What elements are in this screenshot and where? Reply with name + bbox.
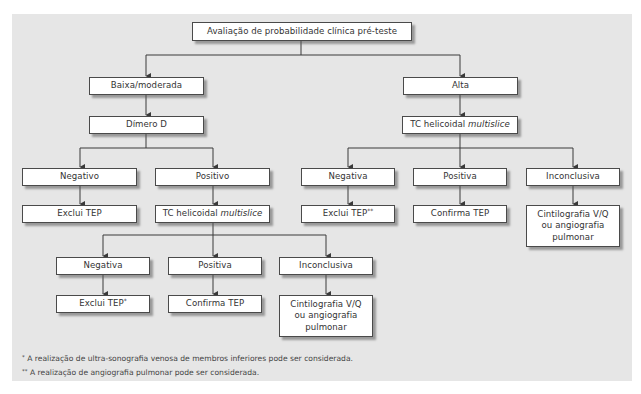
node-label-line: ou angiografia	[295, 310, 358, 322]
node-label: Inconclusiva	[546, 171, 600, 183]
footnote-marker: *	[124, 297, 127, 304]
node-ct-low-pos-confirms-pe: Confirma TEP	[168, 295, 262, 313]
node-label-line: ou angiografia	[542, 220, 605, 232]
node-ct-low-inc-scintigraphy: Cintilografia V/Q ou angiografia pulmona…	[279, 295, 373, 337]
footnote-marker: **	[367, 207, 373, 214]
node-label-line: Cintilografia V/Q	[290, 299, 361, 311]
node-label: Negativa	[329, 171, 368, 183]
node-label: Confirma TEP	[431, 208, 489, 220]
node-ct-low: TC helicoidal multislice	[155, 205, 270, 223]
node-ct-low-positive: Positiva	[168, 257, 262, 275]
node-label: Avaliação de probabilidade clínica pré-t…	[207, 26, 397, 38]
node-label: Baixa/moderada	[111, 80, 182, 92]
node-ct-high-negative: Negativa	[301, 168, 395, 186]
node-high: Alta	[403, 77, 518, 95]
node-label: Exclui TEP	[57, 208, 101, 220]
node-label: Exclui TEP*	[79, 298, 126, 310]
node-ct-low-inconclusive: Inconclusiva	[279, 257, 373, 275]
node-ct-low-neg-excludes-pe: Exclui TEP*	[56, 295, 150, 313]
node-ct-high-inconclusive: Inconclusiva	[526, 168, 620, 186]
node-ct-high-pos-confirms-pe: Confirma TEP	[413, 205, 507, 223]
node-label: Alta	[452, 80, 469, 92]
node-label: Exclui TEP**	[323, 208, 374, 220]
node-ct-high-inc-scintigraphy: Cintilografia V/Q ou angiografia pulmona…	[526, 205, 620, 247]
node-label: Negativa	[84, 260, 123, 272]
node-label: TC helicoidal multislice	[163, 208, 263, 220]
node-dimer-positive: Positivo	[155, 168, 270, 186]
node-label: Confirma TEP	[186, 298, 244, 310]
node-label: Inconclusiva	[299, 260, 353, 272]
footnotes: * A realização de ultra-sonografia venos…	[22, 351, 353, 379]
node-label: Positiva	[198, 260, 232, 272]
node-ct-high-neg-excludes-pe: Exclui TEP**	[301, 205, 395, 223]
node-label: Dímero D	[126, 119, 167, 131]
node-d-dimer: Dímero D	[89, 116, 204, 134]
node-label-line: pulmonar	[305, 322, 347, 334]
node-dimer-neg-excludes-pe: Exclui TEP	[22, 205, 137, 223]
footnote-1: * A realização de ultra-sonografia venos…	[22, 351, 353, 365]
node-label: Positiva	[443, 171, 477, 183]
node-pretest-probability: Avaliação de probabilidade clínica pré-t…	[192, 22, 412, 41]
node-label: Negativo	[60, 171, 99, 183]
node-ct-high: TC helicoidal multislice	[402, 116, 518, 134]
node-label: Positivo	[196, 171, 230, 183]
node-low-moderate: Baixa/moderada	[89, 77, 204, 95]
footnote-2: ** A realização de angiografia pulmonar …	[22, 365, 353, 379]
node-label-line: Cintilografia V/Q	[537, 209, 608, 221]
node-ct-low-negative: Negativa	[56, 257, 150, 275]
node-ct-high-positive: Positiva	[413, 168, 507, 186]
node-label-line: pulmonar	[552, 232, 594, 244]
node-label: TC helicoidal multislice	[410, 119, 510, 131]
node-dimer-negative: Negativo	[22, 168, 137, 186]
